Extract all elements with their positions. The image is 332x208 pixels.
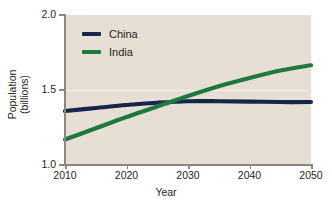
- series-line-china: [65, 101, 311, 111]
- y-tick-1.5: [59, 89, 64, 91]
- x-axis-title: Year: [0, 186, 332, 198]
- legend-label-india: India: [109, 47, 133, 58]
- legend-swatch-china: [82, 32, 101, 37]
- legend-label-china: China: [109, 29, 138, 40]
- y-axis-title-line1: Population: [7, 30, 19, 160]
- x-tick-label-2020: 2020: [104, 170, 150, 181]
- y-axis-line: [64, 14, 66, 166]
- x-tick-label-2010: 2010: [42, 170, 88, 181]
- legend: China India: [82, 25, 138, 61]
- legend-swatch-india: [82, 50, 101, 55]
- y-tick-1.0: [59, 164, 64, 166]
- legend-item-china: China: [82, 25, 138, 43]
- y-tick-label-1.0: 1.0: [30, 159, 56, 170]
- x-tick-label-2030: 2030: [165, 170, 211, 181]
- population-projection-chart: 2.0 1.5 1.0 2010 2020 2030 2040 2050 Yea…: [0, 0, 332, 208]
- y-tick-label-2.0: 2.0: [30, 9, 56, 20]
- y-axis-title-line2: (billions): [18, 30, 30, 160]
- y-tick-label-1.5: 1.5: [30, 84, 56, 95]
- x-tick-label-2050: 2050: [288, 170, 332, 181]
- legend-item-india: India: [82, 43, 138, 61]
- y-tick-2.0: [59, 14, 64, 16]
- y-axis-title: Population (billions): [7, 30, 30, 160]
- x-tick-label-2040: 2040: [227, 170, 273, 181]
